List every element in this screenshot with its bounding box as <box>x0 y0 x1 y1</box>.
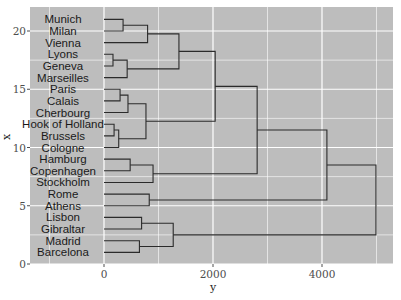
leaf-label: Madrid <box>45 235 80 247</box>
leaf-label: Paris <box>50 83 76 95</box>
leaf-label: Geneva <box>43 60 84 72</box>
x-tick-label: 2000 <box>200 268 227 280</box>
leaf-label: Stockholm <box>36 176 90 188</box>
x-tick-label: 0 <box>101 268 108 280</box>
leaf-label: Copenhagen <box>30 165 96 177</box>
leaf-label: Gibraltar <box>41 223 85 235</box>
leaf-label: Hook of Holland <box>22 118 104 130</box>
y-tick-label: 10 <box>13 142 26 154</box>
leaf-label: Calais <box>47 95 79 107</box>
leaf-label: Brussels <box>41 130 85 142</box>
y-axis-ticks: 05101520 <box>13 25 30 270</box>
x-axis-title: y <box>209 281 217 294</box>
leaf-label: Cherbourg <box>36 107 90 119</box>
y-tick-label: 15 <box>13 83 26 95</box>
leaf-label: Barcelona <box>37 246 89 258</box>
y-tick-label: 0 <box>19 258 26 270</box>
leaf-label: Milan <box>49 25 76 37</box>
x-axis-ticks: 020004000 <box>101 264 336 280</box>
leaf-label: Rome <box>48 188 79 200</box>
leaf-label: Munich <box>44 13 81 25</box>
y-tick-label: 5 <box>19 200 26 212</box>
leaf-label: Athens <box>45 200 81 212</box>
y-tick-label: 20 <box>13 25 26 37</box>
leaf-label: Vienna <box>45 37 81 49</box>
leaf-label: Marseilles <box>37 72 89 84</box>
leaf-label: Lisbon <box>46 211 80 223</box>
leaf-label: Hamburg <box>39 153 86 165</box>
leaf-label: Lyons <box>48 48 79 60</box>
x-tick-label: 4000 <box>309 268 336 280</box>
dendrogram-chart: MunichMilanViennaLyonsGenevaMarseillesPa… <box>0 0 401 300</box>
y-axis-title: x <box>0 133 13 140</box>
leaf-label: Cologne <box>42 142 85 154</box>
